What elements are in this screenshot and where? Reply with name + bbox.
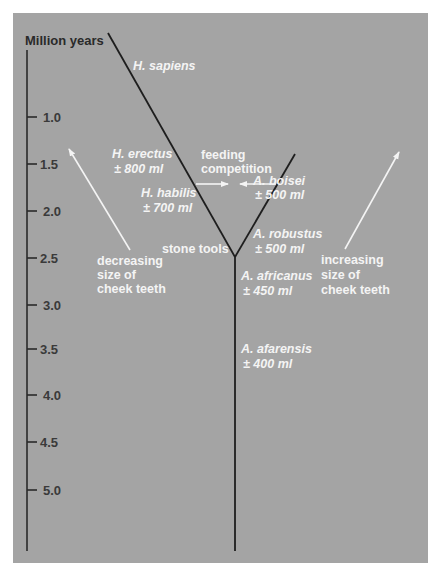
- label-a-boisei: A. boisei: [252, 174, 306, 188]
- tick-label: 2.0: [43, 204, 61, 219]
- increasing-arrow-icon: [345, 152, 399, 249]
- label-h-erectus: H. erectus: [112, 147, 172, 161]
- volume-a-robustus: ± 500 ml: [255, 242, 305, 256]
- feeding-competition-line2: competition: [201, 162, 272, 176]
- label-h-sapiens: H. sapiens: [133, 59, 196, 73]
- feeding-competition-line1: feeding: [201, 148, 245, 162]
- decreasing-line1: decreasing: [97, 254, 163, 268]
- tick-label: 4.5: [40, 435, 58, 450]
- evolution-tree-diagram: Million years 1.0 1.5 2.0 2.5 3.0 3.5 4.…: [0, 0, 441, 571]
- volume-a-boisei: ± 500 ml: [255, 188, 305, 202]
- label-h-habilis: H. habilis: [141, 186, 197, 200]
- volume-h-habilis: ± 700 ml: [143, 201, 193, 215]
- tick-label: 5.0: [43, 483, 61, 498]
- volume-h-erectus: ± 800 ml: [114, 162, 164, 176]
- tick-label: 1.5: [40, 157, 58, 172]
- label-a-afarensis: A. afarensis: [240, 342, 312, 356]
- increasing-line1: increasing: [321, 253, 384, 267]
- volume-a-africanus: ± 450 ml: [243, 284, 293, 298]
- tick-label: 3.0: [43, 298, 61, 313]
- increasing-line2: size of: [321, 268, 361, 282]
- axis-ticks: 1.0 1.5 2.0 2.5 3.0 3.5 4.0 4.5 5.0: [27, 110, 61, 498]
- increasing-line3: cheek teeth: [321, 283, 390, 297]
- stone-tools-label: stone tools: [162, 242, 229, 256]
- tick-label: 3.5: [40, 342, 58, 357]
- decreasing-line2: size of: [97, 268, 137, 282]
- tick-label: 4.0: [43, 388, 61, 403]
- axis-title: Million years: [25, 33, 104, 48]
- volume-a-afarensis: ± 400 ml: [243, 357, 293, 371]
- label-a-robustus: A. robustus: [252, 227, 322, 241]
- tick-label: 1.0: [43, 110, 61, 125]
- decreasing-line3: cheek teeth: [97, 282, 166, 296]
- tick-label: 2.5: [40, 251, 58, 266]
- label-a-africanus: A. africanus: [240, 269, 313, 283]
